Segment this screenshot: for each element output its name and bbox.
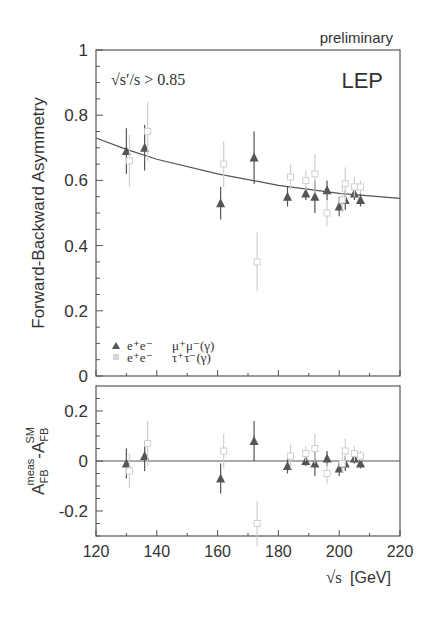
square-marker bbox=[126, 468, 132, 474]
upper-y-tick-label: 0.4 bbox=[64, 237, 88, 256]
square-marker bbox=[342, 181, 348, 187]
triangle-marker bbox=[216, 474, 225, 483]
legend-tau-right: τ⁺τ⁻(γ) bbox=[172, 350, 211, 365]
x-tick-label: 120 bbox=[83, 543, 110, 560]
experiment-label: LEP bbox=[341, 68, 383, 93]
triangle-marker bbox=[323, 454, 332, 463]
data-points bbox=[122, 102, 365, 546]
square-marker bbox=[312, 446, 318, 452]
lower-y-tick-label: -0.2 bbox=[59, 502, 88, 521]
square-marker bbox=[221, 448, 227, 454]
axis-ticks: 12014016018020022000.20.40.60.81-0.200.2 bbox=[59, 41, 414, 560]
lep-afb-figure: 12014016018020022000.20.40.60.81-0.200.2… bbox=[0, 0, 436, 620]
upper-y-tick-label: 1 bbox=[79, 41, 88, 60]
upper-y-tick-label: 0.2 bbox=[64, 302, 88, 321]
square-marker bbox=[339, 461, 345, 467]
triangle-marker bbox=[250, 153, 259, 162]
triangle-marker bbox=[323, 185, 332, 194]
cut-label: √s′/s > 0.85 bbox=[111, 71, 185, 88]
square-marker bbox=[312, 171, 318, 177]
square-marker bbox=[339, 197, 345, 203]
x-axis-label-root: √s bbox=[326, 568, 342, 587]
square-marker bbox=[324, 471, 330, 477]
preliminary-label: preliminary bbox=[320, 29, 394, 46]
triangle-marker bbox=[283, 192, 292, 201]
square-marker bbox=[288, 174, 294, 180]
square-marker bbox=[351, 451, 357, 457]
square-marker bbox=[324, 210, 330, 216]
square-marker bbox=[303, 177, 309, 183]
square-marker bbox=[357, 453, 363, 459]
square-marker bbox=[254, 521, 260, 527]
x-tick-label: 180 bbox=[265, 543, 292, 560]
lower-y-tick-label: 0.2 bbox=[64, 402, 88, 421]
svg-text:AFBmeas-AFBSM: AFBmeas-AFBSM bbox=[24, 427, 50, 495]
x-tick-label: 140 bbox=[143, 543, 170, 560]
legend-tau-left: e⁺e⁻ bbox=[127, 350, 153, 365]
square-marker bbox=[303, 451, 309, 457]
x-tick-label: 200 bbox=[326, 543, 353, 560]
square-marker bbox=[351, 184, 357, 190]
triangle-marker bbox=[250, 436, 259, 445]
square-marker bbox=[342, 448, 348, 454]
upper-y-axis-label: Forward-Backward Asymmetry bbox=[29, 97, 48, 329]
square-marker bbox=[288, 453, 294, 459]
square-marker bbox=[145, 129, 151, 135]
upper-y-tick-label: 0.6 bbox=[64, 171, 88, 190]
x-axis-label-unit: [GeV] bbox=[350, 569, 391, 586]
triangle-marker bbox=[216, 198, 225, 207]
upper-y-tick-label: 0 bbox=[79, 367, 88, 386]
legend-square-icon bbox=[113, 354, 119, 360]
upper-y-tick-label: 0.8 bbox=[64, 106, 88, 125]
square-marker bbox=[145, 441, 151, 447]
x-tick-label: 220 bbox=[387, 543, 414, 560]
legend: e⁺e⁻ μ⁺μ⁻(γ) e⁺e⁻ τ⁺τ⁻(γ) bbox=[112, 338, 214, 365]
upper-panel-frame bbox=[96, 50, 400, 376]
square-marker bbox=[254, 259, 260, 265]
square-marker bbox=[126, 158, 132, 164]
square-marker bbox=[221, 161, 227, 167]
square-marker bbox=[357, 184, 363, 190]
legend-triangle-icon bbox=[112, 342, 120, 349]
x-tick-label: 160 bbox=[204, 543, 231, 560]
lower-y-tick-label: 0 bbox=[79, 452, 88, 471]
lower-y-axis-label: AFBmeas-AFBSM bbox=[24, 427, 50, 495]
